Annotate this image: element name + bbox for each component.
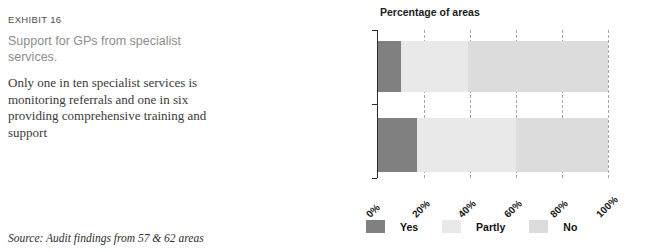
legend-item-no[interactable]: No <box>529 220 577 233</box>
legend-swatch-no <box>529 220 548 233</box>
exhibit-text-panel: EXHIBIT 16 Support for GPs from speciali… <box>8 14 233 141</box>
tick-label-40%: 40% <box>456 198 478 220</box>
legend-swatch-partly <box>442 220 461 233</box>
gridline-100% <box>608 30 610 178</box>
source-note: Source: Audit findings from 57 & 62 area… <box>8 232 204 244</box>
legend-label: No <box>563 221 577 233</box>
y-tick-1 <box>372 104 377 105</box>
bar-segment-yes[interactable] <box>378 41 401 92</box>
exhibit-label: EXHIBIT 16 <box>8 14 233 25</box>
tick-label-20%: 20% <box>410 198 432 220</box>
legend-label: Partly <box>476 221 505 233</box>
tick-label-100%: 100% <box>594 194 620 220</box>
plot-area: 0%20%40%60%80%100% <box>378 30 608 178</box>
exhibit-summary: Only one in ten specialist services is m… <box>8 75 220 141</box>
chart-title: Percentage of areas <box>380 6 480 18</box>
tick-label-80%: 80% <box>548 198 570 220</box>
tick-label-0%: 0% <box>364 202 382 220</box>
legend-label: Yes <box>400 221 418 233</box>
y-tick-2 <box>372 178 377 179</box>
bar-segment-partly[interactable] <box>417 118 516 172</box>
y-tick-0 <box>372 30 377 31</box>
chart-legend: YesPartlyNo <box>366 220 601 233</box>
legend-item-yes[interactable]: Yes <box>366 220 418 233</box>
legend-item-partly[interactable]: Partly <box>442 220 505 233</box>
bar-segment-no[interactable] <box>468 41 608 92</box>
legend-swatch-yes <box>366 220 385 233</box>
exhibit-title: Support for GPs from specialist services… <box>8 34 198 65</box>
tick-label-60%: 60% <box>502 198 524 220</box>
chart-panel: Percentage of areas Consistent monitorin… <box>250 0 661 252</box>
bar-segment-partly[interactable] <box>401 41 468 92</box>
bar-segment-no[interactable] <box>516 118 608 172</box>
bar-segment-yes[interactable] <box>378 118 417 172</box>
